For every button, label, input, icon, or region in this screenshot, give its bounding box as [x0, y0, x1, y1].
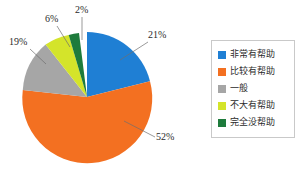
slice-value-label-0: 21%: [148, 30, 166, 40]
legend-label: 非常有帮助: [230, 50, 275, 59]
pie-chart: 21% 52% 19% 6% 2% 非常有帮助 比较有帮助 一般 不大有帮助 完…: [0, 0, 307, 172]
legend-swatch-icon: [218, 119, 226, 127]
slice-value-label-1: 52%: [156, 132, 174, 142]
chart-legend: 非常有帮助 比较有帮助 一般 不大有帮助 完全没帮助: [211, 40, 295, 138]
legend-item-2[interactable]: 一般: [218, 80, 290, 97]
legend-label: 一般: [230, 84, 248, 93]
legend-item-4[interactable]: 完全没帮助: [218, 114, 290, 131]
legend-item-3[interactable]: 不大有帮助: [218, 97, 290, 114]
plot-area: 21% 52% 19% 6% 2%: [0, 0, 200, 172]
legend-label: 完全没帮助: [230, 118, 275, 127]
legend-swatch-icon: [218, 102, 226, 110]
legend-swatch-icon: [218, 68, 226, 76]
legend-label: 不大有帮助: [230, 101, 275, 110]
legend-swatch-icon: [218, 51, 226, 59]
pie-svg: [0, 0, 200, 172]
slice-value-label-4: 2%: [75, 5, 88, 15]
legend-item-0[interactable]: 非常有帮助: [218, 46, 290, 63]
legend-item-1[interactable]: 比较有帮助: [218, 63, 290, 80]
legend-label: 比较有帮助: [230, 67, 275, 76]
slice-value-label-2: 19%: [9, 37, 27, 47]
slice-value-label-3: 6%: [45, 14, 58, 24]
legend-swatch-icon: [218, 85, 226, 93]
